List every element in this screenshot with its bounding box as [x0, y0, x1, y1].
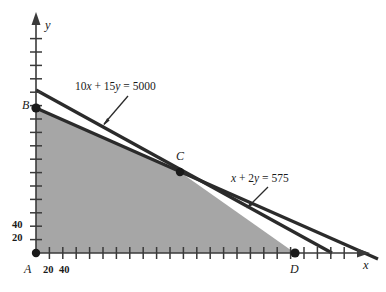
plot-canvas	[0, 0, 386, 292]
x-tick-label-40: 40	[59, 265, 70, 276]
y-tick-label-40: 40	[12, 220, 23, 231]
y-axis-arrowhead	[32, 12, 41, 25]
y-axis-label: y	[45, 19, 51, 32]
vertex-dot-B	[31, 103, 40, 112]
constraint-2-label: x + 2y = 575	[231, 173, 289, 185]
constraint-1-label: 10x + 15y = 5000	[75, 81, 156, 93]
constraint-2-part-mid: + 2	[236, 172, 254, 184]
vertex-dot-C	[176, 168, 184, 176]
vertex-label-D: D	[290, 263, 299, 275]
constraint-1-part-mid: + 15	[92, 80, 116, 92]
vertex-label-C: C	[176, 150, 184, 162]
vertex-label-A: A	[24, 263, 31, 275]
y-tick-label-20: 20	[12, 233, 23, 244]
x-axis-label: x	[363, 259, 369, 272]
constraint-2-part-rhs: = 575	[259, 172, 289, 184]
vertex-dot-D	[290, 248, 299, 257]
constraint-1-part-coef: 10	[75, 80, 87, 92]
constraint-1-part-rhs: = 5000	[120, 80, 155, 92]
x-tick-label-20: 20	[43, 265, 54, 276]
feasible-region-figure: y x 40 20 20 40 A B C D 10x + 15y = 5000…	[0, 0, 386, 292]
constraint-1-leader	[103, 96, 128, 126]
vertex-dot-A	[32, 249, 40, 257]
vertex-label-B: B	[22, 99, 29, 111]
